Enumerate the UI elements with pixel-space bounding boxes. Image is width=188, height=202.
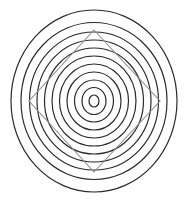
figure-canvas: [0, 0, 188, 202]
concentric-rings-diagram: [0, 0, 188, 202]
